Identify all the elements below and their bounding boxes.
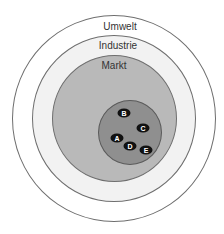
node-a: A: [111, 134, 124, 143]
umwelt-label: Umwelt: [103, 21, 136, 32]
industrie-label: Industrie: [99, 40, 137, 51]
node-c: C: [137, 124, 150, 133]
node-d: D: [124, 142, 137, 151]
markt-label: Markt: [102, 60, 127, 71]
core-circle: [98, 100, 162, 165]
node-e: E: [140, 146, 153, 155]
node-b: B: [118, 109, 131, 118]
